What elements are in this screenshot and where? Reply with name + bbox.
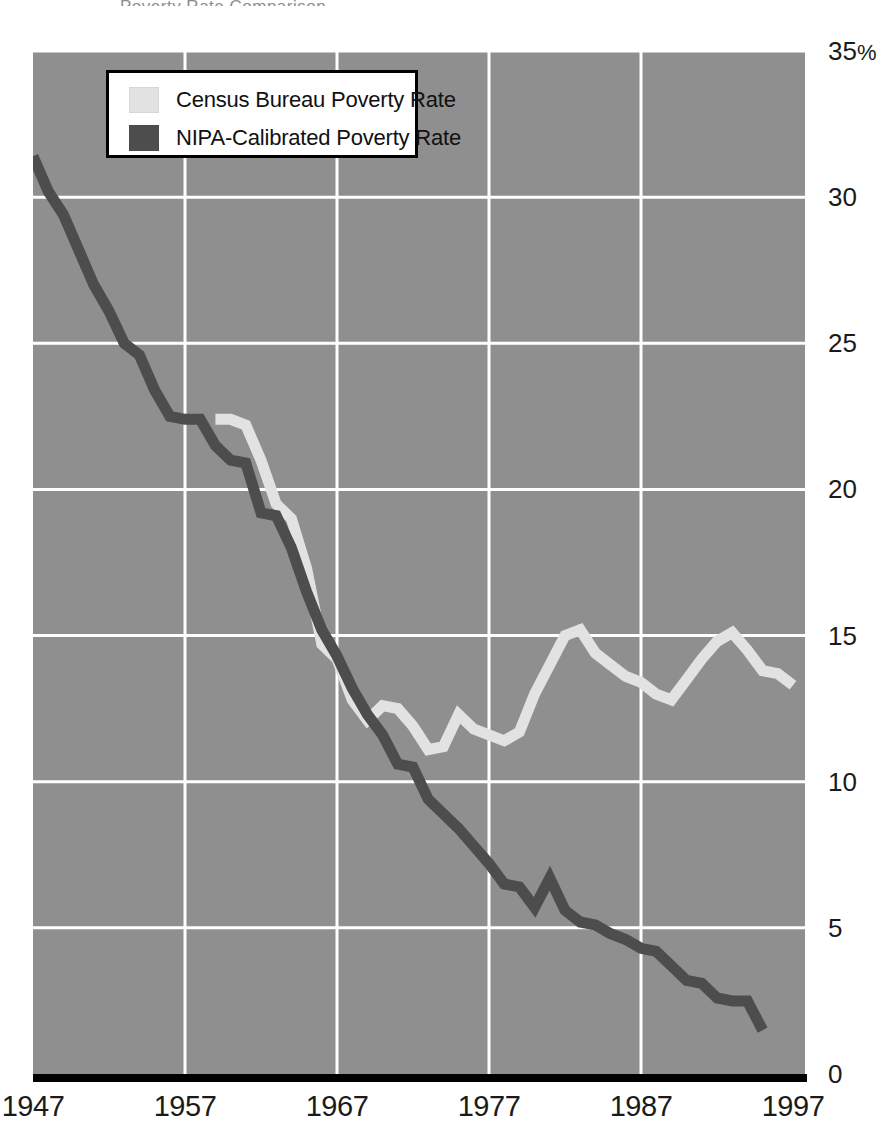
- plot-area: [33, 51, 805, 1074]
- percent-symbol: %: [857, 40, 877, 65]
- legend-swatch-census: [129, 87, 159, 113]
- title-sliver: Poverty Rate Comparison: [120, 0, 450, 6]
- y-tick-label: 5: [828, 912, 842, 943]
- plot-svg: [33, 51, 805, 1074]
- y-tick-label: 0: [828, 1059, 842, 1090]
- gridlines: [33, 51, 805, 1074]
- chart-legend: Census Bureau Poverty Rate NIPA-Calibrat…: [106, 70, 418, 158]
- x-tick-label: 1987: [610, 1090, 673, 1123]
- x-tick-label: 1967: [306, 1090, 369, 1123]
- legend-swatch-nipa: [129, 125, 159, 151]
- x-tick-label: 1997: [762, 1090, 825, 1123]
- legend-label-census: Census Bureau Poverty Rate: [176, 87, 456, 113]
- series-line-nipa: [33, 156, 763, 1030]
- x-axis-baseline: [33, 1074, 807, 1082]
- legend-item-census: Census Bureau Poverty Rate: [129, 83, 415, 117]
- y-tick-label: 25: [828, 328, 857, 359]
- legend-item-nipa: NIPA-Calibrated Poverty Rate: [129, 121, 415, 155]
- y-tick-label: 10: [828, 766, 857, 797]
- y-tick-label: 15: [828, 620, 857, 651]
- x-tick-label: 1947: [2, 1090, 65, 1123]
- y-tick-label: 35%: [828, 36, 876, 67]
- poverty-rate-chart: Poverty Rate Comparison 35%302520151050 …: [0, 0, 891, 1136]
- y-tick-label: 20: [828, 474, 857, 505]
- x-tick-label: 1977: [458, 1090, 521, 1123]
- y-tick-label: 30: [828, 182, 857, 213]
- series-lines: [33, 156, 793, 1030]
- x-tick-label: 1957: [154, 1090, 217, 1123]
- legend-label-nipa: NIPA-Calibrated Poverty Rate: [176, 125, 461, 151]
